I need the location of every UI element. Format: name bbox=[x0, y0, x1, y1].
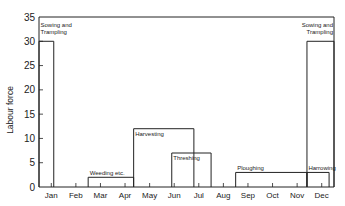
activity-box bbox=[88, 177, 133, 187]
activity-label: Harvesting bbox=[135, 131, 164, 137]
x-tick-label: Jan bbox=[45, 191, 58, 200]
y-tick-label: 30 bbox=[24, 36, 36, 47]
x-tick-label: Apr bbox=[119, 191, 132, 200]
x-tick-label: Mar bbox=[94, 191, 108, 200]
activity-box bbox=[307, 172, 329, 187]
activity-label: Trampling bbox=[307, 29, 333, 35]
x-tick-label: Oct bbox=[266, 191, 279, 200]
activity-label: Trampling bbox=[41, 29, 67, 35]
x-tick-label: Sep bbox=[241, 191, 256, 200]
activity-label: Sowing and bbox=[41, 22, 72, 28]
activity-label: Harrowing bbox=[308, 165, 335, 171]
x-tick-label: Jun bbox=[168, 191, 181, 200]
activity-label: Sowing and bbox=[302, 22, 333, 28]
activity-label: Ploughing bbox=[237, 165, 264, 171]
y-tick-label: 15 bbox=[24, 109, 36, 120]
activity-label: Weeding etc. bbox=[90, 170, 125, 176]
y-tick-label: 35 bbox=[24, 12, 36, 23]
y-tick-label: 5 bbox=[29, 157, 35, 168]
y-tick-label: 20 bbox=[24, 84, 36, 95]
x-tick-label: Aug bbox=[216, 191, 230, 200]
y-axis-label: Labour force bbox=[5, 86, 15, 134]
x-tick-label: May bbox=[142, 191, 157, 200]
x-tick-label: Jul bbox=[194, 191, 204, 200]
y-tick-label: 25 bbox=[24, 60, 36, 71]
x-tick-label: Feb bbox=[69, 191, 83, 200]
activity-box bbox=[236, 172, 307, 187]
activity-label: Threshing bbox=[173, 155, 200, 161]
plot-frame bbox=[39, 17, 334, 187]
y-tick-label: 10 bbox=[24, 133, 36, 144]
y-tick-label: 0 bbox=[29, 182, 35, 193]
x-tick-label: Nov bbox=[290, 191, 304, 200]
x-tick-label: Dec bbox=[315, 191, 329, 200]
labour-force-chart: 05101520253035Labour forceJanFebMarAprMa… bbox=[0, 0, 345, 206]
